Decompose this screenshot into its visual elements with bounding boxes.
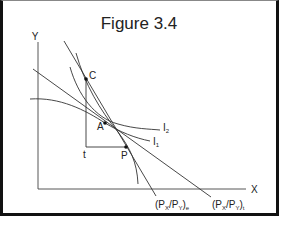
price-line-t-label: (PX/PY)t <box>212 199 245 211</box>
x-axis-label: X <box>251 184 258 195</box>
point-p <box>124 145 128 149</box>
price-line-e-label: (PX/PY)e <box>155 199 190 211</box>
price-line-t <box>33 69 211 197</box>
diagram: Figure 3.4 Y X C A P t I2 I1 (PX/PY)e (P… <box>0 0 288 229</box>
curve-i2-label: I2 <box>163 122 170 134</box>
y-axis-label: Y <box>32 31 39 42</box>
point-t-label: t <box>83 149 86 160</box>
indifference-curve-i2 <box>70 67 160 130</box>
point-c-label: C <box>89 70 96 81</box>
curve-i1-label: I1 <box>153 136 160 148</box>
point-c <box>84 77 88 81</box>
point-a <box>103 121 107 125</box>
production-curve <box>76 53 138 184</box>
point-p-label: P <box>121 150 128 161</box>
price-line-e <box>64 41 156 196</box>
figure-title: Figure 3.4 <box>101 14 178 33</box>
point-a-label: A <box>97 121 104 132</box>
